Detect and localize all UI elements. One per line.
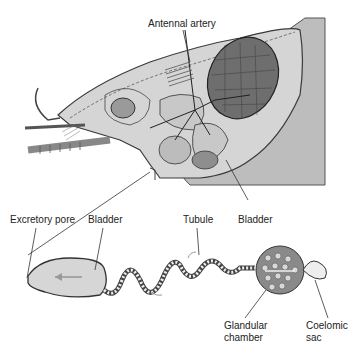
label-bladder-left: Bladder: [88, 214, 122, 226]
crustacean-excretory-diagram: [0, 0, 361, 355]
label-glandular-chamber-line2: chamber: [224, 332, 263, 344]
label-coelomic-sac-line1: Coelomic: [306, 320, 348, 332]
label-glandular-chamber-line1: Glandular: [224, 320, 267, 332]
excretory-organ-schematic: [27, 228, 328, 318]
label-tubule: Tubule: [183, 214, 213, 226]
label-coelomic-sac-line2: sac: [306, 332, 322, 344]
label-antennal-artery: Antennal artery: [148, 18, 216, 30]
label-excretory-pore: Excretory pore: [10, 214, 75, 226]
label-bladder-right: Bladder: [238, 214, 272, 226]
